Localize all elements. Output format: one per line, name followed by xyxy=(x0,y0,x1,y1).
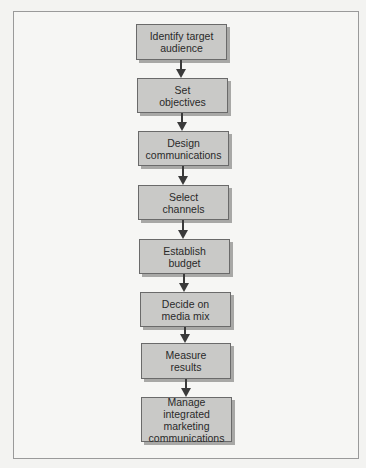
arrow-down-icon xyxy=(180,327,190,343)
arrow-down-icon xyxy=(179,274,189,292)
step-manage-imc: Manage integrated marketing communicatio… xyxy=(141,397,232,442)
step-design-communications: Design communications xyxy=(138,131,229,166)
step-establish-budget: Establish budget xyxy=(139,239,230,274)
step-decide-media-mix: Decide on media mix xyxy=(140,292,231,327)
step-select-channels: Select channels xyxy=(138,185,229,220)
arrow-down-icon xyxy=(178,166,188,185)
arrow-down-icon xyxy=(177,113,187,131)
arrow-down-icon xyxy=(181,379,191,397)
step-identify-target-audience: Identify target audience xyxy=(136,24,227,60)
arrow-down-icon xyxy=(176,60,186,78)
step-measure-results: Measure results xyxy=(141,343,231,379)
step-set-objectives: Set objectives xyxy=(137,78,228,113)
arrow-down-icon xyxy=(178,220,188,239)
